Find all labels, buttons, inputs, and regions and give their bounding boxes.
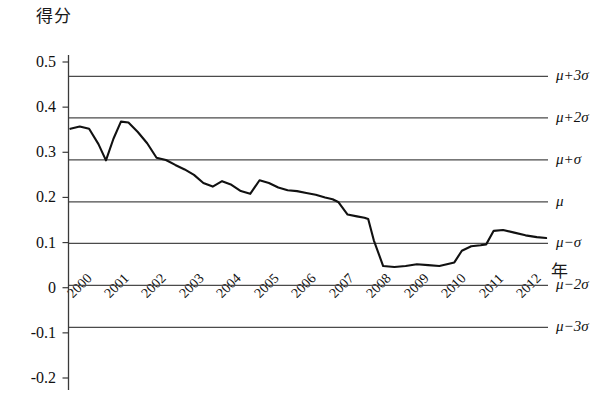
plot-area bbox=[0, 0, 604, 396]
score-control-chart: 得分 年 0.50.40.30.20.10-0.1-0.2 2000200120… bbox=[0, 0, 604, 396]
data-series-line bbox=[70, 122, 546, 267]
y-axis-ticks bbox=[63, 62, 69, 378]
reference-lines bbox=[69, 76, 549, 327]
